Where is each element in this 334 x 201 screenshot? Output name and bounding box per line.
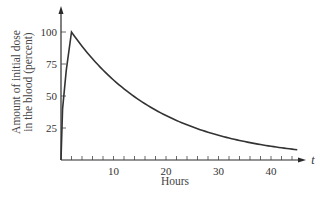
y-tick-label: 100 (41, 26, 58, 38)
axes (59, 6, 307, 163)
x-variable-label: t (311, 153, 315, 167)
y-axis-arrow-icon (59, 6, 64, 14)
y-tick-label: 25 (46, 122, 58, 134)
x-tick-label: 40 (266, 165, 278, 177)
y-axis-label: Amount of initial dose in the blood (per… (10, 30, 35, 134)
y-axis-label-line-2: in the blood (percent) (22, 32, 35, 131)
x-ticks: 10203040 (72, 156, 293, 177)
y-axis-label-line-1: Amount of initial dose (10, 30, 22, 134)
x-axis-label: Hours (161, 175, 190, 187)
y-tick-label: 75 (46, 58, 58, 70)
x-tick-label: 30 (213, 165, 225, 177)
y-tick-label: 50 (46, 90, 58, 102)
x-tick-label: 10 (108, 165, 120, 177)
concentration-curve (61, 32, 297, 160)
drug-concentration-chart: 10203040 255075100 Hours t Amount of ini… (0, 0, 334, 201)
x-axis-arrow-icon (298, 158, 306, 163)
